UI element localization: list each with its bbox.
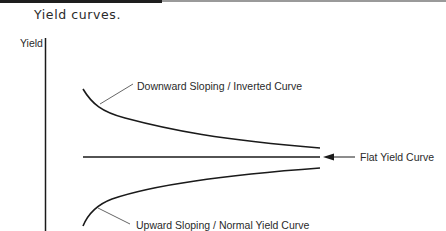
normal-curve-leader [98,208,130,224]
flat-curve-label: Flat Yield Curve [360,151,434,163]
yield-curve-diagram: Yield Downward Sloping / Inverted Curve … [0,0,446,231]
y-axis-label: Yield [20,37,43,49]
inverted-curve-leader [100,84,133,104]
flat-curve-arrowhead [323,154,334,161]
normal-curve [83,168,320,226]
inverted-curve [83,89,320,148]
inverted-curve-label: Downward Sloping / Inverted Curve [137,80,302,92]
normal-curve-label: Upward Sloping / Normal Yield Curve [136,219,309,231]
